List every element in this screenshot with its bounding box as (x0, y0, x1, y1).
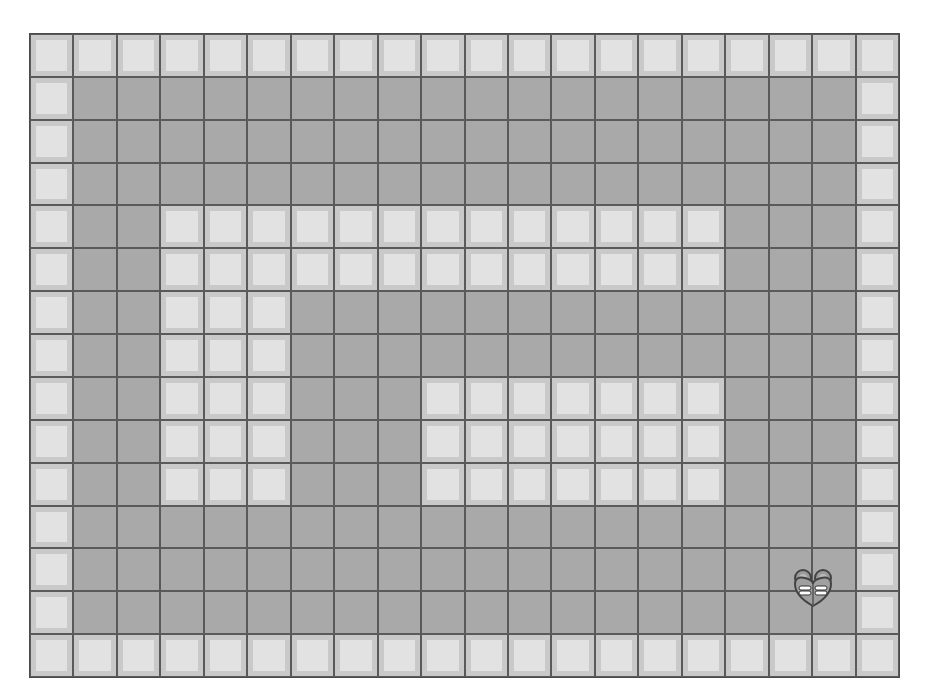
floor-tile[interactable] (770, 335, 811, 376)
floor-tile[interactable] (118, 335, 159, 376)
floor-tile[interactable] (813, 335, 854, 376)
floor-tile[interactable] (118, 378, 159, 419)
floor-tile[interactable] (74, 507, 115, 548)
floor-tile[interactable] (466, 78, 507, 119)
floor-tile[interactable] (770, 507, 811, 548)
floor-tile[interactable] (118, 292, 159, 333)
floor-tile[interactable] (552, 549, 593, 590)
floor-tile[interactable] (770, 164, 811, 205)
floor-tile[interactable] (726, 592, 767, 633)
floor-tile[interactable] (726, 121, 767, 162)
floor-tile[interactable] (205, 549, 246, 590)
floor-tile[interactable] (118, 78, 159, 119)
floor-tile[interactable] (596, 292, 637, 333)
floor-tile[interactable] (813, 164, 854, 205)
floor-tile[interactable] (74, 592, 115, 633)
floor-tile[interactable] (379, 164, 420, 205)
floor-tile[interactable] (292, 549, 333, 590)
floor-tile[interactable] (74, 78, 115, 119)
floor-tile[interactable] (509, 592, 550, 633)
floor-tile[interactable] (466, 121, 507, 162)
floor-tile[interactable] (770, 292, 811, 333)
floor-tile[interactable] (596, 164, 637, 205)
floor-tile[interactable] (639, 507, 680, 548)
floor-tile[interactable] (509, 507, 550, 548)
floor-tile[interactable] (813, 78, 854, 119)
floor-tile[interactable] (335, 335, 376, 376)
floor-tile[interactable] (292, 421, 333, 462)
floor-tile[interactable] (596, 78, 637, 119)
floor-tile[interactable] (379, 549, 420, 590)
floor-tile[interactable] (74, 164, 115, 205)
floor-tile[interactable] (422, 592, 463, 633)
floor-tile[interactable] (813, 464, 854, 505)
floor-tile[interactable] (726, 549, 767, 590)
floor-tile[interactable] (118, 549, 159, 590)
floor-tile[interactable] (509, 78, 550, 119)
floor-tile[interactable] (118, 421, 159, 462)
floor-tile[interactable] (813, 121, 854, 162)
floor-tile[interactable] (596, 121, 637, 162)
floor-tile[interactable] (292, 464, 333, 505)
floor-tile[interactable] (639, 549, 680, 590)
floor-tile[interactable] (74, 335, 115, 376)
floor-tile[interactable] (335, 421, 376, 462)
floor-tile[interactable] (379, 121, 420, 162)
floor-tile[interactable] (596, 549, 637, 590)
floor-tile[interactable] (248, 507, 289, 548)
floor-tile[interactable] (726, 507, 767, 548)
floor-tile[interactable] (813, 378, 854, 419)
floor-tile[interactable] (161, 164, 202, 205)
floor-tile[interactable] (726, 335, 767, 376)
floor-tile[interactable] (161, 549, 202, 590)
floor-tile[interactable] (770, 378, 811, 419)
floor-tile[interactable] (552, 507, 593, 548)
floor-tile[interactable] (726, 78, 767, 119)
floor-tile[interactable] (639, 121, 680, 162)
floor-tile[interactable] (379, 592, 420, 633)
floor-tile[interactable] (683, 121, 724, 162)
floor-tile[interactable] (552, 121, 593, 162)
floor-tile[interactable] (639, 592, 680, 633)
floor-tile[interactable] (683, 507, 724, 548)
floor-tile[interactable] (813, 421, 854, 462)
floor-tile[interactable] (639, 164, 680, 205)
floor-tile[interactable] (466, 507, 507, 548)
floor-tile[interactable] (335, 121, 376, 162)
floor-tile[interactable] (683, 292, 724, 333)
floor-tile[interactable] (335, 549, 376, 590)
floor-tile[interactable] (118, 164, 159, 205)
floor-tile[interactable] (466, 335, 507, 376)
floor-tile[interactable] (726, 292, 767, 333)
floor-tile[interactable] (379, 464, 420, 505)
floor-tile[interactable] (813, 206, 854, 247)
floor-tile[interactable] (422, 121, 463, 162)
floor-tile[interactable] (552, 164, 593, 205)
floor-tile[interactable] (770, 206, 811, 247)
floor-tile[interactable] (292, 507, 333, 548)
floor-tile[interactable] (726, 206, 767, 247)
floor-tile[interactable] (205, 592, 246, 633)
floor-tile[interactable] (639, 78, 680, 119)
floor-tile[interactable] (248, 164, 289, 205)
floor-tile[interactable] (509, 549, 550, 590)
floor-tile[interactable] (770, 78, 811, 119)
floor-tile[interactable] (292, 292, 333, 333)
floor-tile[interactable] (118, 249, 159, 290)
floor-tile[interactable] (335, 464, 376, 505)
floor-tile[interactable] (379, 335, 420, 376)
floor-tile[interactable] (74, 464, 115, 505)
floor-tile[interactable] (683, 78, 724, 119)
floor-tile[interactable] (683, 164, 724, 205)
floor-tile[interactable] (335, 592, 376, 633)
floor-tile[interactable] (292, 121, 333, 162)
floor-tile[interactable] (74, 421, 115, 462)
floor-tile[interactable] (726, 421, 767, 462)
floor-tile[interactable] (292, 378, 333, 419)
floor-tile[interactable] (422, 292, 463, 333)
game-board-grid[interactable] (29, 33, 900, 678)
floor-tile[interactable] (118, 206, 159, 247)
floor-tile[interactable] (466, 549, 507, 590)
floor-tile[interactable] (335, 378, 376, 419)
floor-tile[interactable] (683, 549, 724, 590)
